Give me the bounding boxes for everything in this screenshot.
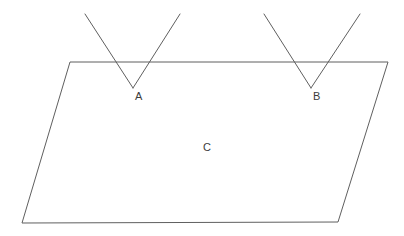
angle-a-label: A (135, 91, 142, 102)
angle-b-left-arm (264, 14, 311, 88)
plane-c-label: C (203, 142, 211, 153)
geometry-diagram: A B C (0, 0, 404, 236)
diagram-canvas (0, 0, 404, 236)
angle-a-left-arm (85, 14, 133, 88)
angle-a-right-arm (133, 14, 180, 88)
angle-b-label: B (313, 91, 320, 102)
angle-b-right-arm (311, 14, 360, 88)
